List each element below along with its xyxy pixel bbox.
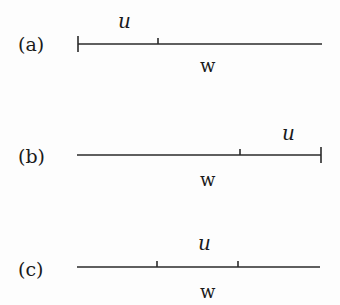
panel-label: (b): [18, 145, 45, 167]
panel-label: (a): [18, 33, 44, 55]
segment-diagram: (a)uw(b)uw(c)uw: [0, 0, 340, 305]
figure-canvas: (a)uw(b)uw(c)uw: [0, 0, 340, 305]
subsegment-label-u: u: [118, 9, 131, 33]
subsegment-label-u: u: [282, 121, 295, 145]
panel-c: (c)uw: [18, 231, 320, 302]
panel-label: (c): [18, 258, 43, 280]
subsegment-label-u: u: [198, 231, 211, 255]
panel-a: (a)uw: [18, 9, 322, 76]
line-label-w: w: [200, 281, 216, 302]
line-label-w: w: [200, 55, 216, 76]
line-label-w: w: [200, 169, 216, 190]
panel-b: (b)uw: [18, 121, 321, 190]
